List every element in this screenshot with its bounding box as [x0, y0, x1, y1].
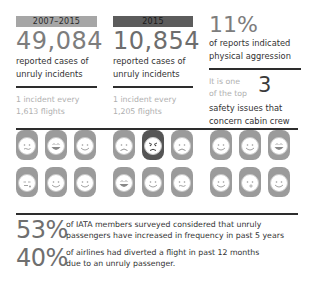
- divider: [113, 86, 193, 88]
- incident-count: 10,854: [113, 29, 193, 53]
- stat-row-diverted: 40% of airlines had diverted a flight in…: [16, 246, 259, 270]
- face-smile-icon: [74, 167, 96, 197]
- face-angry-icon: [142, 130, 164, 160]
- top-issues-lead: It is one of the top: [209, 76, 301, 101]
- stat-percent: 40%: [16, 246, 66, 270]
- face-laugh-icon: [113, 167, 135, 197]
- aggression-percent: 11%: [209, 14, 301, 36]
- face-smile-icon: [268, 167, 290, 197]
- face-smile-icon: [210, 130, 232, 160]
- section-divider-bottom: [16, 213, 298, 215]
- stat-column-aggression: 11% of reports indicated physical aggres…: [209, 15, 301, 128]
- aggression-description: of reports indicated physical aggression: [209, 37, 301, 63]
- face-smirk-icon: [16, 130, 38, 160]
- face-kiss-icon: [239, 167, 261, 197]
- face-sad-icon: [171, 130, 193, 160]
- face-smile-icon: [210, 167, 232, 197]
- face-group-1: [16, 130, 102, 197]
- top-issues-description: safety issues that concern cabin crew: [209, 102, 301, 128]
- count-description: reported cases of unruly incidents: [113, 55, 193, 81]
- face-smile-icon: [45, 167, 67, 197]
- face-wink-icon: [16, 167, 38, 197]
- count-description: reported cases of unruly incidents: [16, 55, 97, 81]
- face-laugh-icon: [268, 130, 290, 160]
- divider: [16, 86, 97, 88]
- incident-rate: 1 incident every 1,613 flights: [16, 94, 97, 119]
- face-smirk-icon: [171, 167, 193, 197]
- divider: [209, 68, 301, 70]
- face-smile-icon: [142, 167, 164, 197]
- top-issues-number: 3: [258, 75, 271, 96]
- face-smile-icon: [239, 130, 261, 160]
- face-sad-icon: [113, 130, 135, 160]
- face-group-3: [210, 130, 296, 197]
- stat-description: of airlines had diverted a flight in pas…: [66, 246, 259, 269]
- stat-row-increase: 53% of IATA members surveyed considered …: [16, 218, 284, 242]
- stat-description: of IATA members surveyed considered that…: [66, 218, 284, 241]
- incident-rate: 1 incident every 1,205 flights: [113, 94, 193, 119]
- period-label: 2007–2015: [16, 16, 97, 27]
- face-laugh-icon: [45, 130, 67, 160]
- passenger-faces-grid: [16, 130, 300, 210]
- stat-column-2015: 2015 10,854 reported cases of unruly inc…: [113, 16, 193, 119]
- face-smile-icon: [74, 130, 96, 160]
- face-group-2: [113, 130, 199, 197]
- period-label: 2015: [113, 16, 193, 27]
- incident-count: 49,084: [16, 29, 97, 53]
- stat-column-2007-2015: 2007–2015 49,084 reported cases of unrul…: [16, 16, 97, 119]
- stat-percent: 53%: [16, 218, 66, 242]
- top-issues-callout: It is one of the top 3: [209, 76, 301, 102]
